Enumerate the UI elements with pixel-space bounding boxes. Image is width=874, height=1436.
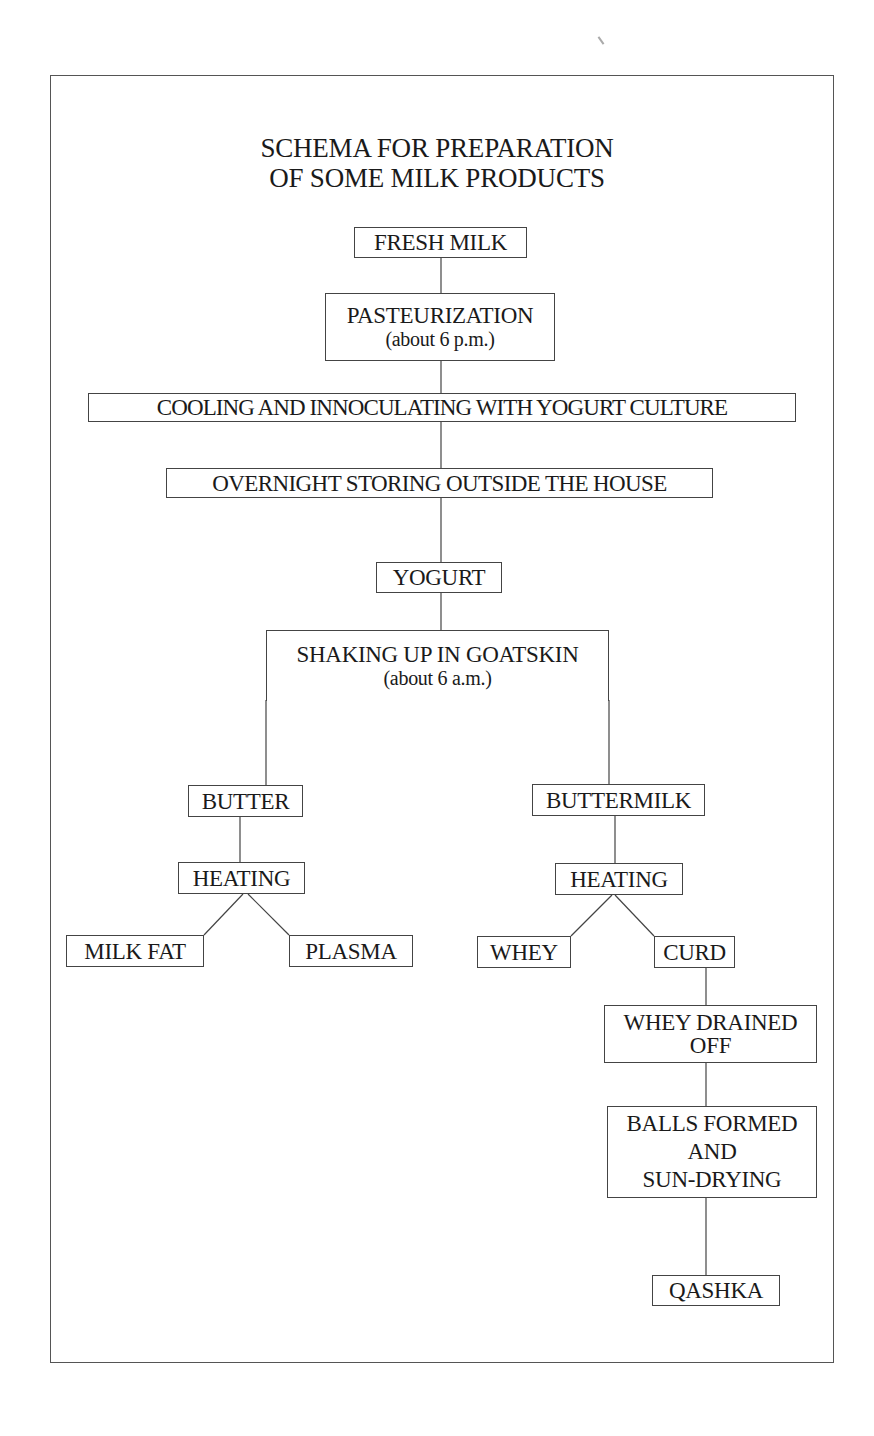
connector-lines [0, 0, 874, 1436]
node-label: PASTEURIZATION [347, 304, 534, 327]
node-label: SHAKING UP IN GOATSKIN [297, 643, 579, 666]
node-label: COOLING AND INNOCULATING WITH YOGURT CUL… [157, 396, 727, 419]
node-label-line-3: SUN-DRYING [643, 1166, 782, 1194]
node-note: (about 6 a.m.) [384, 666, 492, 690]
node-buttermilk: BUTTERMILK [532, 784, 705, 816]
node-overnight-storing: OVERNIGHT STORING OUTSIDE THE HOUSE [166, 468, 713, 498]
node-label: BUTTERMILK [546, 789, 691, 812]
node-label: BUTTER [202, 790, 290, 813]
edge-heating-plasma [248, 894, 289, 935]
node-pasteurization: PASTEURIZATION (about 6 p.m.) [325, 293, 555, 361]
node-butter: BUTTER [188, 785, 303, 817]
node-fresh-milk: FRESH MILK [354, 227, 527, 258]
node-heating-butter: HEATING [178, 862, 305, 894]
node-label: CURD [663, 941, 726, 964]
node-note: (about 6 p.m.) [385, 327, 494, 351]
node-whey-drained-off: WHEY DRAINED OFF [604, 1005, 817, 1063]
node-label-line-1: BALLS FORMED [627, 1110, 798, 1138]
node-label-line-2: OFF [690, 1034, 731, 1057]
node-yogurt: YOGURT [376, 562, 502, 593]
edge-heating-milk-fat [204, 894, 243, 935]
node-label: HEATING [570, 868, 668, 891]
node-label-line-1: WHEY DRAINED [624, 1011, 798, 1034]
node-curd: CURD [654, 936, 735, 968]
node-label: YOGURT [393, 566, 486, 589]
node-milk-fat: MILK FAT [66, 935, 204, 967]
edge-heating-curd [615, 895, 654, 936]
node-heating-buttermilk: HEATING [555, 863, 683, 895]
node-balls-sun-drying: BALLS FORMED AND SUN-DRYING [607, 1106, 817, 1198]
node-label: MILK FAT [84, 940, 185, 963]
node-whey: WHEY [477, 936, 571, 968]
node-plasma: PLASMA [289, 935, 413, 967]
node-qashka: QASHKA [652, 1275, 780, 1306]
node-label: FRESH MILK [374, 231, 507, 254]
node-cooling-innoculating: COOLING AND INNOCULATING WITH YOGURT CUL… [88, 393, 796, 422]
edge-heating-whey [571, 895, 612, 936]
node-label: OVERNIGHT STORING OUTSIDE THE HOUSE [212, 472, 666, 495]
node-label: PLASMA [305, 940, 397, 963]
node-label: WHEY [490, 941, 558, 964]
node-label: QASHKA [669, 1279, 763, 1302]
node-label: HEATING [193, 867, 291, 890]
node-label-line-2: AND [688, 1138, 737, 1166]
node-shaking-goatskin: SHAKING UP IN GOATSKIN (about 6 a.m.) [266, 630, 609, 701]
